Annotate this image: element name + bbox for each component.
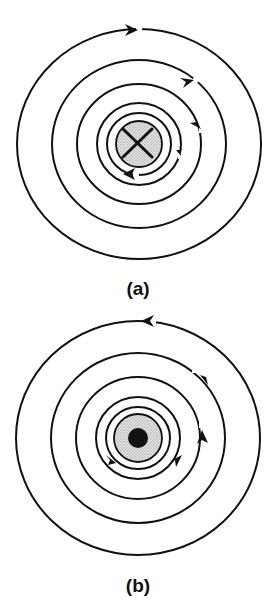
arrow-up-icon	[197, 430, 208, 444]
current-out-of-page-dot-icon	[128, 428, 148, 448]
panel-a	[17, 29, 261, 259]
panel-b	[16, 321, 260, 555]
arrow-down-right-icon	[180, 78, 194, 88]
panel-label-b: (b)	[0, 575, 276, 597]
magnetic-field-diagram	[0, 0, 276, 611]
panel-label-a: (a)	[0, 278, 276, 300]
